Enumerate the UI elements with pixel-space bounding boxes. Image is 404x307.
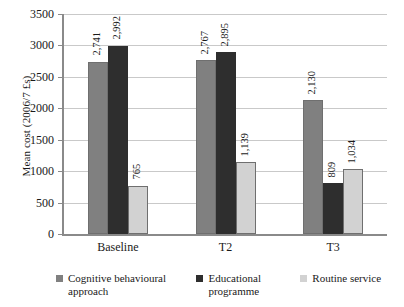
- plot-area: 0500100015002000250030003500 2,7412,9927…: [62, 14, 387, 236]
- bar-slot: 1,034: [343, 14, 363, 234]
- y-tick-label: 500: [36, 197, 54, 209]
- bar-groups: 2,7412,9927652,7672,8951,1392,1308091,03…: [64, 14, 387, 234]
- bar-slot: 2,895: [216, 14, 236, 234]
- bar-group: 2,7672,8951,139: [172, 14, 280, 234]
- bar-chart: Mean cost (2006/7 £s) 050010001500200025…: [0, 0, 404, 307]
- chart-legend: Cognitive behavioural approachEducationa…: [56, 272, 396, 298]
- y-tick-mark: [58, 14, 62, 15]
- legend-item[interactable]: Cognitive behavioural approach: [56, 272, 186, 298]
- y-tick-label: 1500: [30, 134, 54, 146]
- y-tick-mark: [58, 203, 62, 204]
- y-tick-mark: [58, 108, 62, 109]
- bar-value-label: 765: [131, 164, 142, 180]
- y-tick-mark: [58, 171, 62, 172]
- legend-label: Cognitive behavioural approach: [68, 272, 186, 298]
- bar-value-label: 1,034: [347, 139, 358, 163]
- bar-slot: 2,767: [196, 14, 216, 234]
- y-tick-mark: [58, 234, 62, 235]
- y-tick-mark: [58, 45, 62, 46]
- bar[interactable]: [303, 100, 323, 234]
- x-axis-category-labels: BaselineT2T3: [64, 240, 387, 255]
- bar[interactable]: [128, 186, 148, 234]
- y-tick-mark: [58, 140, 62, 141]
- bar[interactable]: [108, 46, 128, 234]
- legend-swatch-icon: [196, 275, 203, 282]
- legend-label: Educational programme: [208, 272, 290, 298]
- bar-slot: 1,139: [236, 14, 256, 234]
- y-tick-label: 3500: [30, 8, 54, 20]
- bar-slot: 809: [323, 14, 343, 234]
- bar-slot: 2,992: [108, 14, 128, 234]
- bar-slot: 2,130: [303, 14, 323, 234]
- bar[interactable]: [343, 169, 363, 234]
- x-axis-line: [62, 234, 387, 236]
- y-tick-label: 2000: [30, 102, 54, 114]
- y-tick-label: 1000: [30, 165, 54, 177]
- legend-item[interactable]: Routine service: [300, 272, 396, 285]
- bar-value-label: 2,741: [91, 32, 102, 56]
- legend-swatch-icon: [300, 275, 307, 282]
- bar-group: 2,1308091,034: [279, 14, 387, 234]
- legend-item[interactable]: Educational programme: [196, 272, 290, 298]
- bar-value-label: 2,767: [199, 30, 210, 54]
- x-axis-category-label: T2: [172, 240, 280, 255]
- x-axis-category-label: T3: [279, 240, 387, 255]
- bar[interactable]: [236, 162, 256, 234]
- bar-value-label: 809: [327, 161, 338, 177]
- bar[interactable]: [216, 52, 236, 234]
- bar[interactable]: [323, 183, 343, 234]
- bar[interactable]: [88, 62, 108, 234]
- legend-swatch-icon: [56, 275, 63, 282]
- bar-value-label: 1,139: [239, 133, 250, 157]
- y-tick-label: 2500: [30, 71, 54, 83]
- y-tick-label: 0: [48, 228, 54, 240]
- bar-value-label: 2,992: [111, 16, 122, 40]
- bar-value-label: 2,895: [219, 22, 230, 46]
- bar-slot: 2,741: [88, 14, 108, 234]
- bar-slot: 765: [128, 14, 148, 234]
- bar[interactable]: [196, 60, 216, 234]
- y-tick-label: 3000: [30, 39, 54, 51]
- x-axis-category-label: Baseline: [64, 240, 172, 255]
- y-tick-mark: [58, 77, 62, 78]
- bar-value-label: 2,130: [307, 71, 318, 95]
- bar-group: 2,7412,992765: [64, 14, 172, 234]
- legend-label: Routine service: [312, 272, 381, 285]
- y-axis-title: Mean cost (2006/7 £s): [20, 31, 32, 221]
